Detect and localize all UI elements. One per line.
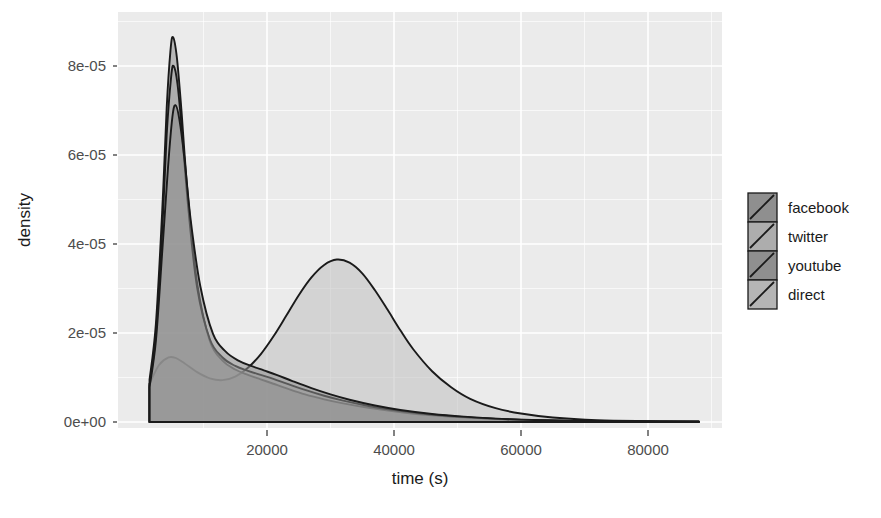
legend-label-youtube: youtube [788, 257, 841, 274]
y-tick-label: 4e-05 [68, 235, 106, 252]
y-tick-label: 0e+00 [64, 413, 106, 430]
legend-label-twitter: twitter [788, 228, 828, 245]
x-tick-label: 80000 [627, 441, 669, 458]
chart-canvas: 0e+002e-054e-056e-058e-05200004000060000… [0, 0, 881, 518]
y-axis-title: density [15, 193, 34, 247]
x-tick-label: 20000 [246, 441, 288, 458]
x-tick-label: 60000 [500, 441, 542, 458]
legend-label-facebook: facebook [788, 199, 849, 216]
density-plot-figure: 0e+002e-054e-056e-058e-05200004000060000… [0, 0, 881, 518]
y-tick-label: 2e-05 [68, 324, 106, 341]
y-tick-label: 8e-05 [68, 57, 106, 74]
legend-label-direct: direct [788, 286, 826, 303]
x-tick-label: 40000 [373, 441, 415, 458]
y-tick-label: 6e-05 [68, 146, 106, 163]
x-axis-title: time (s) [392, 469, 449, 488]
